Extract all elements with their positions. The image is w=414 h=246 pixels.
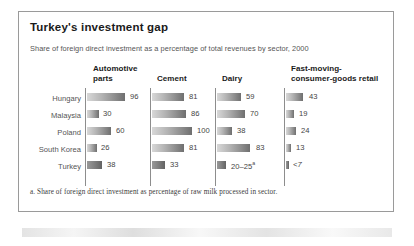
- bar-dairy-turkey: [217, 161, 226, 169]
- value-cement-south-korea: 81: [189, 143, 197, 152]
- bar-fmcg-poland: [286, 127, 296, 135]
- value-automotive-malaysia: 30: [103, 109, 111, 118]
- value-cement-turkey: 33: [170, 160, 178, 169]
- scan-artifact-band: [22, 228, 392, 237]
- chart-footnote: a. Share of foreign direct investment as…: [30, 188, 277, 196]
- row-label-turkey: Turkey: [58, 162, 81, 171]
- row-label-south-korea: South Korea: [39, 145, 81, 154]
- bar-dairy-south-korea: [217, 144, 250, 152]
- bar-fmcg-turkey: [286, 161, 289, 169]
- bar-cement-malaysia: [152, 110, 186, 118]
- value-fmcg-malaysia: 19: [299, 109, 307, 118]
- chart-plot-area: Automotive parts Cement Dairy Fast-movin…: [19, 12, 395, 213]
- axis-line-fmcg-retail: [284, 88, 285, 186]
- value-fmcg-south-korea: 13: [296, 143, 304, 152]
- bar-cement-poland: [152, 127, 192, 135]
- bar-dairy-hungary: [217, 93, 241, 101]
- bar-fmcg-hungary: [286, 93, 303, 101]
- bar-dairy-malaysia: [217, 110, 245, 118]
- value-fmcg-hungary: 43: [309, 92, 317, 101]
- bar-automotive-poland: [87, 127, 111, 135]
- value-cement-poland: 100: [197, 126, 210, 135]
- value-automotive-south-korea: 26: [101, 143, 109, 152]
- bar-automotive-south-korea: [87, 144, 97, 152]
- value-dairy-malaysia: 70: [250, 109, 258, 118]
- bar-fmcg-malaysia: [286, 110, 294, 118]
- row-label-malaysia: Malaysia: [51, 111, 81, 120]
- axis-line-dairy: [215, 88, 216, 186]
- bar-fmcg-south-korea: [286, 144, 291, 152]
- value-automotive-hungary: 96: [130, 92, 138, 101]
- bar-cement-south-korea: [152, 144, 184, 152]
- column-header-automotive-parts: Automotive parts: [93, 64, 163, 83]
- bar-automotive-malaysia: [87, 110, 99, 118]
- value-fmcg-turkey: <7: [293, 160, 302, 169]
- bar-automotive-hungary: [87, 93, 125, 101]
- value-dairy-south-korea: 83: [256, 143, 264, 152]
- value-cement-malaysia: 86: [191, 109, 199, 118]
- value-dairy-turkey-text: 20–25: [231, 162, 252, 171]
- axis-line-cement: [150, 88, 151, 186]
- row-label-hungary: Hungary: [52, 94, 81, 103]
- value-automotive-poland: 60: [116, 126, 124, 135]
- column-header-fmcg-retail: Fast-moving- consumer-goods retail: [291, 64, 396, 83]
- column-header-cement: Cement: [157, 74, 221, 84]
- exhibit-frame: Turkey's investment gap Share of foreign…: [18, 11, 394, 212]
- footnote-marker-a: a: [252, 160, 255, 166]
- value-cement-hungary: 81: [189, 92, 197, 101]
- axis-line-automotive-parts: [85, 88, 86, 186]
- value-dairy-poland: 38: [237, 126, 245, 135]
- value-fmcg-poland: 24: [301, 126, 309, 135]
- column-header-dairy: Dairy: [222, 74, 282, 84]
- value-dairy-hungary: 59: [246, 92, 254, 101]
- value-automotive-turkey: 38: [107, 160, 115, 169]
- bar-cement-hungary: [152, 93, 184, 101]
- bar-dairy-poland: [217, 127, 232, 135]
- bar-cement-turkey: [152, 161, 165, 169]
- value-dairy-turkey: 20–25a: [231, 160, 255, 171]
- row-label-poland: Poland: [57, 128, 81, 137]
- bar-automotive-turkey: [87, 161, 102, 169]
